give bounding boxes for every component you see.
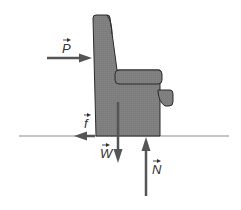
label-f: f [84,113,91,131]
svg-text:f: f [84,116,89,131]
free-body-diagram: P f W N [0,0,241,210]
armrest [115,70,162,84]
svg-text:N: N [152,162,162,177]
svg-text:P: P [62,41,71,56]
force-f [74,132,95,141]
label-P: P [62,38,71,56]
svg-text:W: W [100,146,114,161]
label-W: W [100,143,114,161]
force-N [142,137,151,196]
label-N: N [152,159,162,177]
